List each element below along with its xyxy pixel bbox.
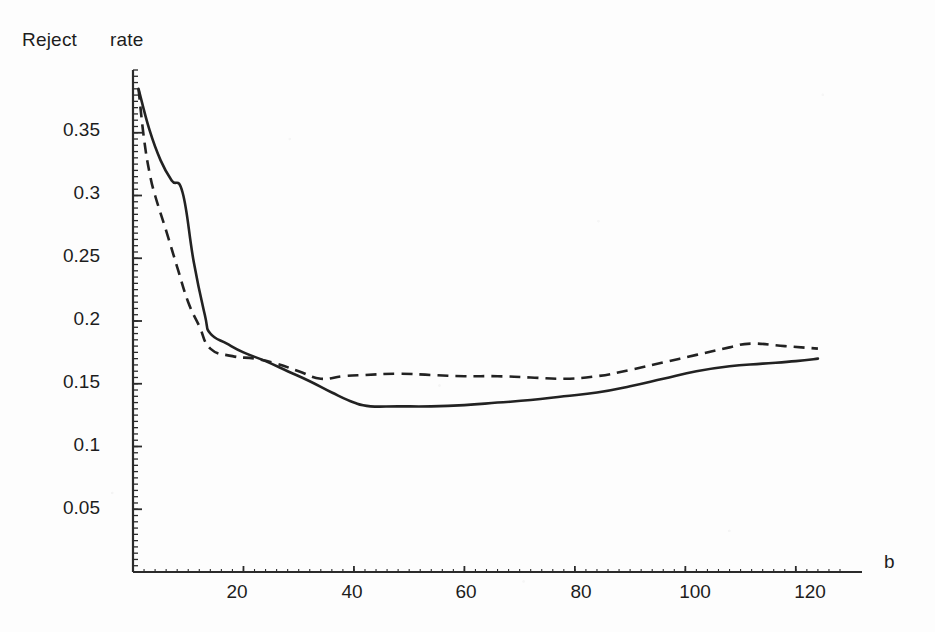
axes [133,70,862,572]
data-series-group [139,89,818,407]
series-solid-line [139,89,818,407]
reject-rate-figure: Reject rate 0.35 0.3 0.25 0.2 0.15 0.1 0… [0,0,935,632]
plot-area [0,0,935,632]
series-dashed-line [139,89,818,379]
